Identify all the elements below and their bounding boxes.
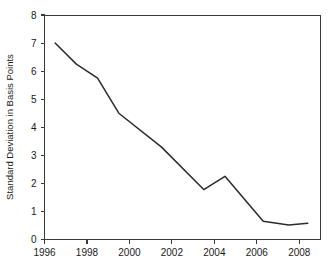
y-tick-label: 1 bbox=[31, 206, 37, 217]
x-tick-label: 2004 bbox=[203, 247, 226, 258]
y-axis-title: Standard Deviation in Basis Points bbox=[4, 54, 15, 200]
y-tick-label: 6 bbox=[31, 66, 37, 77]
y-tick-label: 2 bbox=[31, 178, 37, 189]
y-tick-label: 5 bbox=[31, 94, 37, 105]
x-tick-label: 2000 bbox=[118, 247, 141, 258]
y-tick-label: 8 bbox=[31, 10, 37, 21]
y-tick-label: 4 bbox=[31, 122, 37, 133]
x-tick-label: 2006 bbox=[246, 247, 269, 258]
y-tick-label: 3 bbox=[31, 150, 37, 161]
x-tick-label: 1996 bbox=[33, 247, 56, 258]
x-tick-label: 2008 bbox=[288, 247, 311, 258]
y-tick-label: 7 bbox=[31, 38, 37, 49]
x-tick-label: 2002 bbox=[161, 247, 184, 258]
x-tick-label: 1998 bbox=[76, 247, 99, 258]
line-chart: 012345678 1996199820002002200420062008 S… bbox=[0, 0, 335, 271]
y-axis-tick-labels: 012345678 bbox=[31, 10, 37, 246]
chart-container: 012345678 1996199820002002200420062008 S… bbox=[0, 0, 335, 271]
y-tick-label: 0 bbox=[31, 234, 37, 245]
chart-background bbox=[0, 0, 335, 271]
